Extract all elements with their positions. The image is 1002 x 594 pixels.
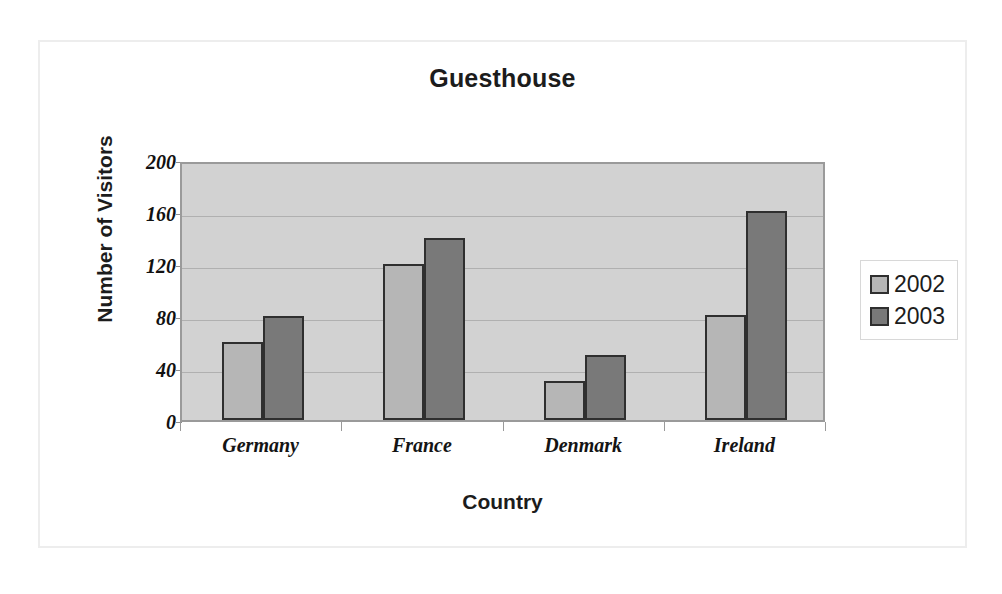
gridline	[182, 216, 823, 217]
x-axis-title: Country	[180, 490, 825, 514]
bar-denmark-2002	[544, 381, 585, 420]
bar-ireland-2003	[746, 211, 787, 420]
y-tick-label: 120	[114, 255, 176, 278]
plot-inner	[182, 164, 823, 420]
legend-item-2002: 2002	[870, 273, 945, 296]
y-tick-label: 40	[114, 359, 176, 382]
bar-france-2002	[383, 264, 424, 420]
plot-area	[180, 162, 825, 422]
legend-swatch-icon	[870, 275, 889, 294]
y-tick-label: 160	[114, 203, 176, 226]
legend-item-2003: 2003	[870, 305, 945, 328]
bar-germany-2002	[222, 342, 263, 420]
chart-title: Guesthouse	[40, 64, 965, 93]
y-tick-label: 0	[114, 411, 176, 434]
legend-label: 2003	[894, 305, 945, 328]
x-tick-mark	[503, 422, 504, 431]
gridline	[182, 268, 823, 269]
bar-denmark-2003	[585, 355, 626, 420]
y-tick-mark	[176, 422, 182, 423]
x-tick-mark	[180, 422, 181, 431]
x-tick-mark	[341, 422, 342, 431]
chart-frame: Guesthouse Number of Visitors 0408012016…	[38, 40, 967, 548]
chart-legend: 20022003	[860, 260, 958, 340]
x-category-label: Germany	[186, 434, 336, 457]
y-tick-label: 80	[114, 307, 176, 330]
y-tick-label: 200	[114, 151, 176, 174]
x-category-label: France	[347, 434, 497, 457]
x-category-label: Denmark	[508, 434, 658, 457]
x-tick-mark	[664, 422, 665, 431]
bar-france-2003	[424, 238, 465, 420]
y-axis-tick-labels: 04080120160200	[102, 162, 176, 422]
x-category-label: Ireland	[669, 434, 819, 457]
x-tick-mark	[825, 422, 826, 431]
legend-label: 2002	[894, 273, 945, 296]
bar-ireland-2002	[705, 315, 746, 420]
bar-germany-2003	[263, 316, 304, 420]
legend-swatch-icon	[870, 307, 889, 326]
